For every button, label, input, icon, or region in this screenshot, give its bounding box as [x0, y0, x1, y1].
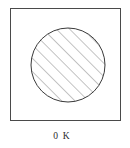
hatched-circle [31, 28, 105, 102]
caption-row: 0 K [0, 125, 124, 143]
temperature-caption: 0 K [53, 130, 70, 142]
figure-container: 0 K [0, 0, 130, 148]
